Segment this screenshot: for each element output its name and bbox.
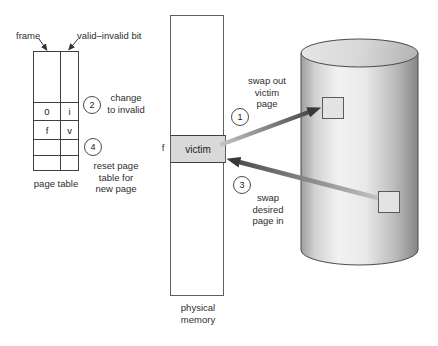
- step-4-circle: 4: [84, 138, 102, 156]
- swap-desired-page-in-label: swap desired page in: [252, 192, 283, 227]
- page-table-cell: [34, 155, 60, 170]
- reset-page-table-label: reset page table for new page: [94, 160, 139, 195]
- change-to-invalid-label: change to invalid: [107, 92, 145, 115]
- frame-f-label: f: [162, 142, 165, 154]
- frame-label: frame: [16, 30, 40, 41]
- page-table-cell: [60, 155, 78, 170]
- page-table-cell-bit-i: i: [60, 102, 78, 120]
- page-table-cell: [34, 139, 60, 155]
- victim-frame-cell: victim: [170, 135, 226, 163]
- valid-invalid-bit-label: valid–invalid bit: [77, 30, 141, 41]
- step-2-circle: 2: [83, 96, 101, 114]
- swap-out-victim-page-label: swap out victim page: [248, 75, 286, 110]
- physical-memory-caption: physical memory: [181, 302, 215, 326]
- page-table-cell: [60, 139, 78, 155]
- step-3-circle: 3: [233, 176, 251, 194]
- page-table-cell-frame-f: f: [34, 120, 60, 139]
- physical-memory-caption-line1: physical: [181, 302, 215, 314]
- page-table-cell: [34, 52, 60, 102]
- disk-cylinder-body: [301, 53, 418, 265]
- disk-cylinder-top: [301, 39, 418, 67]
- physical-memory-rect: victim: [170, 15, 224, 296]
- disk-page-square-top: [322, 97, 344, 119]
- step-1-circle: 1: [231, 108, 249, 126]
- disk-page-square-bottom: [378, 191, 400, 213]
- physical-memory-caption-line2: memory: [181, 314, 215, 326]
- page-table: 0 i f v: [33, 51, 79, 171]
- page-replacement-diagram: 0 i f v frame valid–invalid bit page tab…: [0, 0, 438, 346]
- page-table-caption: page table: [34, 178, 78, 190]
- page-table-cell-bit-v: v: [60, 120, 78, 139]
- page-table-cell: [60, 52, 78, 102]
- page-table-cell-frame-0: 0: [34, 102, 60, 120]
